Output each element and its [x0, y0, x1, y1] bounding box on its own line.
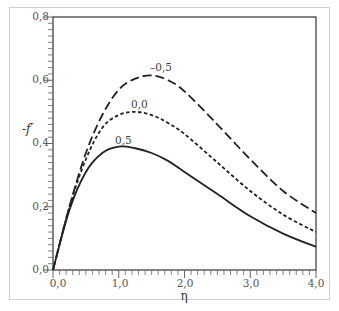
- y-tick-label: 0,2: [32, 200, 49, 212]
- x-tick-label: 2,0: [177, 277, 194, 289]
- curve-label-0-0: 0,0: [131, 98, 148, 110]
- y-tick-label: 0,4: [32, 136, 49, 148]
- y-tick-label: 0,6: [32, 73, 49, 85]
- curve-label-0-5: 0,5: [115, 134, 132, 146]
- y-axis-title: -f′: [22, 122, 33, 136]
- line-chart: 0,0 0,2 0,4 0,6 0,8 0,0 1,0 2,0 3,0 4,0 …: [0, 0, 339, 311]
- x-tick-label: 3,0: [243, 277, 260, 289]
- x-tick-label: 1,0: [112, 277, 129, 289]
- curve-0-0: [53, 112, 316, 270]
- curve-0-5: [53, 146, 316, 270]
- y-tick-label: 0,8: [32, 10, 49, 22]
- curve-label-minus-0-5: –0,5: [150, 61, 172, 73]
- x-axis-title: η: [180, 289, 187, 303]
- x-tick-label: 0,0: [50, 277, 67, 289]
- y-tick-label: 0,0: [32, 263, 49, 275]
- x-tick-label: 4,0: [308, 277, 325, 289]
